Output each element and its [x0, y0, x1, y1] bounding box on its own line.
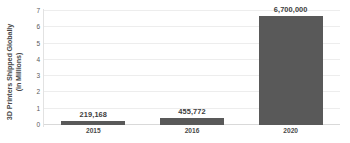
y-axis-tick-labels: 01234567: [28, 11, 42, 125]
y-axis-tick-label: 3: [36, 73, 40, 80]
y-axis-tick-label: 2: [36, 89, 40, 96]
y-axis-tick-label: 6: [36, 24, 40, 31]
y-axis-tick-label: 5: [36, 40, 40, 47]
y-axis-title-line2: (in Millions): [14, 23, 23, 119]
bar-group[interactable]: 6,700,000: [259, 11, 323, 125]
bar[interactable]: [160, 118, 224, 125]
bar-series: 219,168455,7726,700,000: [44, 11, 340, 125]
plot-area: 219,168455,7726,700,000: [44, 11, 340, 125]
y-axis-title: 3D Printers Shipped Globally (in Million…: [0, 0, 28, 143]
x-axis-tick-label: 2016: [160, 127, 224, 134]
bar-value-label: 455,772: [160, 107, 224, 116]
y-axis-tick-label: 1: [36, 105, 40, 112]
y-axis-tick-label: 0: [36, 122, 40, 129]
x-axis-tick-label: 2015: [61, 127, 125, 134]
x-axis-tick-label: 2020: [259, 127, 323, 134]
y-axis-tick-label: 7: [36, 8, 40, 15]
bar[interactable]: [61, 121, 125, 125]
bar-group[interactable]: 455,772: [160, 11, 224, 125]
bar[interactable]: [259, 16, 323, 125]
bar-value-label: 219,168: [61, 110, 125, 119]
x-axis-tick-labels: 201520162020: [44, 127, 340, 141]
bar-group[interactable]: 219,168: [61, 11, 125, 125]
y-axis-title-line1: 3D Printers Shipped Globally: [5, 23, 14, 119]
bar-value-label: 6,700,000: [259, 5, 323, 14]
bar-chart: 3D Printers Shipped Globally (in Million…: [0, 0, 350, 143]
y-axis-tick-label: 4: [36, 57, 40, 64]
